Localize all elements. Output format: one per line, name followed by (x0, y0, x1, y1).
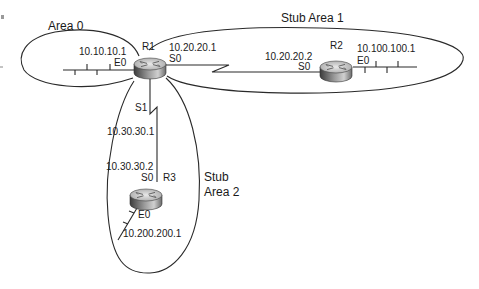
stub-area-1-label: Stub Area 1 (281, 11, 344, 25)
stub-area-2-label-line2: Area 2 (204, 185, 240, 199)
r2-name: R2 (330, 40, 343, 51)
r3-s0-ip: 10.30.30.2 (106, 161, 154, 172)
r2-e0-ip: 10.100.100.1 (357, 43, 416, 54)
r1-e0-iface: E0 (114, 57, 127, 68)
area-0-label: Area 0 (48, 19, 84, 33)
r2-e0-iface: E0 (357, 55, 370, 66)
router-r3[interactable] (130, 189, 162, 210)
stub-area-2-label-line1: Stub (204, 170, 229, 184)
serial-link-r1-r2 (165, 65, 320, 72)
ospf-topology-diagram: Area 0 Stub Area 1 Stub Area 2 (0, 0, 479, 289)
r3-e0-ip: 10.200.200.1 (123, 228, 182, 239)
r1-s0-ip: 10.20.20.1 (169, 42, 217, 53)
r1-e0-ip: 10.10.10.1 (79, 46, 127, 57)
router-r2[interactable] (320, 61, 352, 82)
r3-s0-iface: S0 (141, 172, 154, 183)
r3-name: R3 (163, 172, 176, 183)
r1-s0-iface: S0 (169, 53, 182, 64)
r2-s0-iface: S0 (298, 61, 311, 72)
r1-s1-ip: 10.30.30.1 (107, 126, 155, 137)
r1-s1-iface: S1 (135, 102, 148, 113)
router-r1[interactable] (134, 58, 166, 79)
margin-mark-square (1, 15, 4, 19)
r1-name: R1 (142, 41, 155, 52)
r3-e0-iface: E0 (138, 209, 151, 220)
